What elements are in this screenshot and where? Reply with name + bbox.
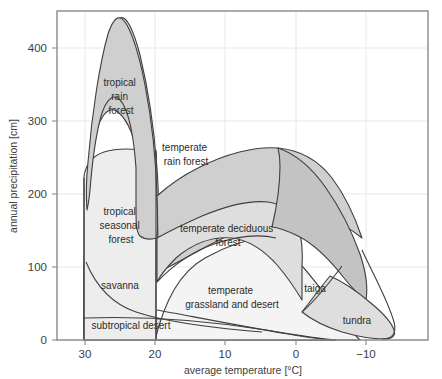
y-tick-300: 300 bbox=[28, 115, 47, 127]
y-tick-0: 0 bbox=[41, 334, 47, 346]
x-tick-20: 20 bbox=[149, 348, 162, 360]
x-axis-title: average temperature [°C] bbox=[184, 364, 302, 376]
label-savanna: savanna bbox=[101, 280, 139, 291]
x-tick-30: 30 bbox=[79, 348, 92, 360]
label-taiga: taiga bbox=[304, 283, 326, 294]
y-tick-400: 400 bbox=[28, 42, 47, 54]
x-tick-neg10: −10 bbox=[356, 348, 376, 360]
x-tick-0: 0 bbox=[293, 348, 299, 360]
y-tickmarks bbox=[52, 48, 57, 340]
x-tick-10: 10 bbox=[219, 348, 232, 360]
chart-svg: 30 20 10 0 −10 0 100 200 300 400 average… bbox=[0, 0, 442, 379]
y-axis-title: annual precipitation [cm] bbox=[7, 119, 19, 233]
label-subtropical-desert: subtropical desert bbox=[92, 320, 171, 331]
label-tundra: tundra bbox=[343, 315, 372, 326]
y-tick-200: 200 bbox=[28, 188, 47, 200]
whittaker-biome-chart: 30 20 10 0 −10 0 100 200 300 400 average… bbox=[0, 0, 442, 379]
x-tickmarks bbox=[85, 340, 366, 345]
y-axis-tick-labels: 0 100 200 300 400 bbox=[28, 42, 47, 346]
y-tick-100: 100 bbox=[28, 261, 47, 273]
x-axis-tick-labels: 30 20 10 0 −10 bbox=[79, 348, 376, 360]
